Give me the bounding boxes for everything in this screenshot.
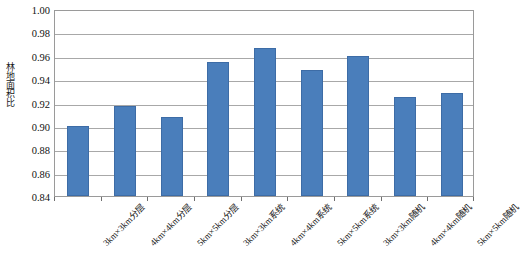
bar[interactable] (161, 117, 183, 196)
y-axis-tick-label: 0.86 (32, 168, 50, 179)
x-axis-tickmark (287, 197, 288, 201)
bar[interactable] (394, 97, 416, 196)
y-axis-tick-label: 0.94 (32, 75, 50, 86)
bar[interactable] (207, 62, 229, 196)
bar-slot (242, 11, 289, 196)
y-axis-tick-label: 0.84 (32, 192, 50, 203)
plot-area (54, 10, 474, 197)
x-axis-tick-label: 3km×3km分层 (101, 202, 147, 248)
y-axis-tick-label: 0.98 (32, 28, 50, 39)
x-axis-tick-label: 4km×4km系统 (288, 202, 334, 248)
bar-slot (195, 11, 242, 196)
bars-layer (55, 11, 473, 196)
x-axis-tickmark (381, 197, 382, 201)
bar[interactable] (347, 56, 369, 196)
x-axis-tickmark (147, 197, 148, 201)
bar[interactable] (114, 106, 136, 196)
x-axis-tickmark (101, 197, 102, 201)
x-axis-tick-label: 4km×4km随机 (428, 202, 474, 248)
bar-slot (428, 11, 475, 196)
x-axis-tick-label: 5km×5km分层 (195, 202, 241, 248)
x-axis-tick-label: 3km×3km随机 (381, 202, 427, 248)
x-axis-tickmark (334, 197, 335, 201)
bar[interactable] (301, 70, 323, 196)
bar-slot (148, 11, 195, 196)
y-axis-tick-label: 1.00 (32, 5, 50, 16)
x-axis-tickmark (194, 197, 195, 201)
x-axis-tick-label: 3km×3km系统 (241, 202, 287, 248)
bar-slot (102, 11, 149, 196)
x-axis-tick-label: 4km×4km分层 (148, 202, 194, 248)
x-axis-tick-labels: 3km×3km分层4km×4km分层5km×5km分层3km×3km系统4km×… (54, 202, 474, 274)
bar-slot (288, 11, 335, 196)
bar[interactable] (441, 93, 463, 196)
bar-slot (335, 11, 382, 196)
y-axis-tick-label: 0.96 (32, 51, 50, 62)
bar[interactable] (254, 48, 276, 196)
bar-slot (55, 11, 102, 196)
y-axis-title: 林地面积比 (1, 62, 15, 107)
x-axis-tickmark (241, 197, 242, 201)
y-axis-tick-label: 0.92 (32, 98, 50, 109)
bar-slot (382, 11, 429, 196)
y-axis-tick-labels: 1.000.980.960.940.920.900.880.860.84 (14, 0, 54, 200)
x-axis-tickmark (427, 197, 428, 201)
y-axis-tick-label: 0.88 (32, 145, 50, 156)
bar[interactable] (67, 126, 89, 196)
x-axis-tick-label: 5km×5km系统 (335, 202, 381, 248)
x-axis-tickmark (473, 197, 474, 201)
x-axis-tickmark (54, 197, 55, 201)
y-axis-tick-label: 0.90 (32, 121, 50, 132)
x-axis-tick-label: 5km×5km随机 (475, 202, 521, 248)
